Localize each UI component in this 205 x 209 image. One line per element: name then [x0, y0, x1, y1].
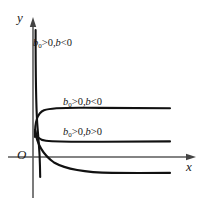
label-mid-b0-subscript: 0: [68, 101, 72, 109]
label-bottom-relation-1: >0,: [72, 126, 86, 137]
x-axis: [8, 154, 196, 160]
origin-label: O: [17, 148, 26, 161]
label-top-relation-2: <0: [61, 37, 72, 48]
x-axis-label: x: [186, 160, 192, 173]
curve-upper-asymptote: [35, 108, 170, 137]
label-top-b0-subscript: 0: [38, 42, 42, 50]
graph-canvas: [0, 0, 205, 209]
curve-label-top: b0>0,b<0: [33, 38, 72, 49]
curve-label-bottom: b0>0,b>0: [63, 127, 102, 138]
y-axis-arrow: [30, 17, 36, 27]
label-mid-relation-1: >0,: [72, 96, 86, 107]
curve-label-middle: b0>0,b<0: [63, 97, 102, 108]
curve-steep-vertical: [36, 30, 41, 177]
label-bottom-relation-2: >0: [91, 126, 102, 137]
math-figure: y x O b0>0,b<0 b0>0,b<0 b0>0,b>0: [0, 0, 205, 209]
y-axis-label: y: [17, 11, 23, 24]
label-top-relation-1: >0,: [42, 37, 56, 48]
label-mid-relation-2: <0: [91, 96, 102, 107]
label-bottom-b0-subscript: 0: [68, 131, 72, 139]
curve-lower-asymptote: [35, 130, 170, 173]
curve-middle-asymptote: [35, 130, 170, 142]
